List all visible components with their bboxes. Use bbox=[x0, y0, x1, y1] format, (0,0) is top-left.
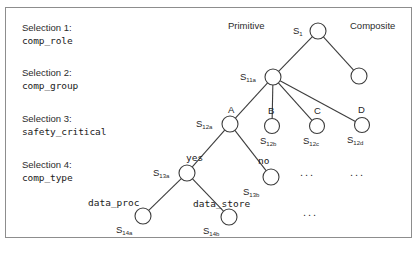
selection-block-3: Selection 3:safety_critical bbox=[22, 112, 106, 138]
tree-node-s11a[interactable] bbox=[265, 69, 281, 85]
selection-title-2: Selection 2: bbox=[22, 66, 78, 79]
tree-node-comp1[interactable] bbox=[351, 68, 367, 84]
tree-node-s12c[interactable] bbox=[310, 119, 325, 134]
node-label-s1: S1 bbox=[293, 25, 303, 36]
node-label-s12c: S12c bbox=[303, 135, 319, 146]
branch-letter-a: A bbox=[228, 104, 234, 115]
tree-edge-s11a-s12a bbox=[235, 83, 267, 118]
diagram-root: Selection 1:comp_roleSelection 2:comp_gr… bbox=[0, 0, 419, 255]
selection-title-3: Selection 3: bbox=[22, 112, 106, 125]
tree-edge-s13a-s14a bbox=[149, 179, 182, 211]
tree-node-s14a[interactable] bbox=[135, 208, 151, 224]
node-label-s12a: S12a bbox=[196, 118, 212, 129]
tree-node-s14b[interactable] bbox=[221, 209, 237, 225]
tree-node-s12a[interactable] bbox=[222, 116, 238, 132]
edge-label-data_store: data_store bbox=[193, 198, 250, 209]
selection-value-2: comp_group bbox=[22, 79, 78, 92]
edge-label-yes: yes bbox=[186, 152, 203, 163]
node-label-s14b: S14b bbox=[203, 225, 219, 236]
branch-letter-b: B bbox=[268, 105, 274, 116]
node-label-s13b: S13b bbox=[243, 186, 259, 197]
column-header-primitive: Primitive bbox=[228, 20, 264, 31]
node-label-s12d: S12d bbox=[347, 134, 363, 145]
selection-block-1: Selection 1:comp_role bbox=[22, 21, 73, 47]
node-label-s11a: S11a bbox=[240, 71, 256, 82]
branch-letter-c: C bbox=[314, 105, 321, 116]
tree-node-s13b[interactable] bbox=[263, 169, 279, 185]
edge-label-no: no bbox=[258, 155, 269, 166]
selection-value-3: safety_critical bbox=[22, 125, 106, 138]
ellipsis-marker-1: ... bbox=[300, 166, 315, 178]
selection-title-1: Selection 1: bbox=[22, 21, 73, 34]
tree-node-s12d[interactable] bbox=[355, 118, 370, 133]
node-label-s14a: S14a bbox=[116, 224, 132, 235]
tree-node-s12b[interactable] bbox=[265, 119, 280, 134]
selection-block-4: Selection 4:comp_type bbox=[22, 158, 73, 184]
selection-value-4: comp_type bbox=[22, 171, 73, 184]
ellipsis-marker-2: ... bbox=[350, 166, 365, 178]
ellipsis-marker-3: ... bbox=[303, 206, 318, 218]
edge-label-data_proc: data_proc bbox=[88, 197, 139, 208]
tree-node-s1[interactable] bbox=[310, 23, 326, 39]
tree-edge-s1-comp1 bbox=[323, 37, 353, 70]
tree-edge-s1-s11a bbox=[279, 37, 313, 72]
selection-value-1: comp_role bbox=[22, 34, 73, 47]
node-label-s12b: S12b bbox=[260, 135, 276, 146]
tree-node-s13a[interactable] bbox=[179, 165, 195, 181]
selection-block-2: Selection 2:comp_group bbox=[22, 66, 78, 92]
column-header-composite: Composite bbox=[350, 20, 395, 31]
selection-title-4: Selection 4: bbox=[22, 158, 73, 171]
branch-letter-d: D bbox=[358, 104, 365, 115]
node-label-s13a: S13a bbox=[153, 167, 169, 178]
